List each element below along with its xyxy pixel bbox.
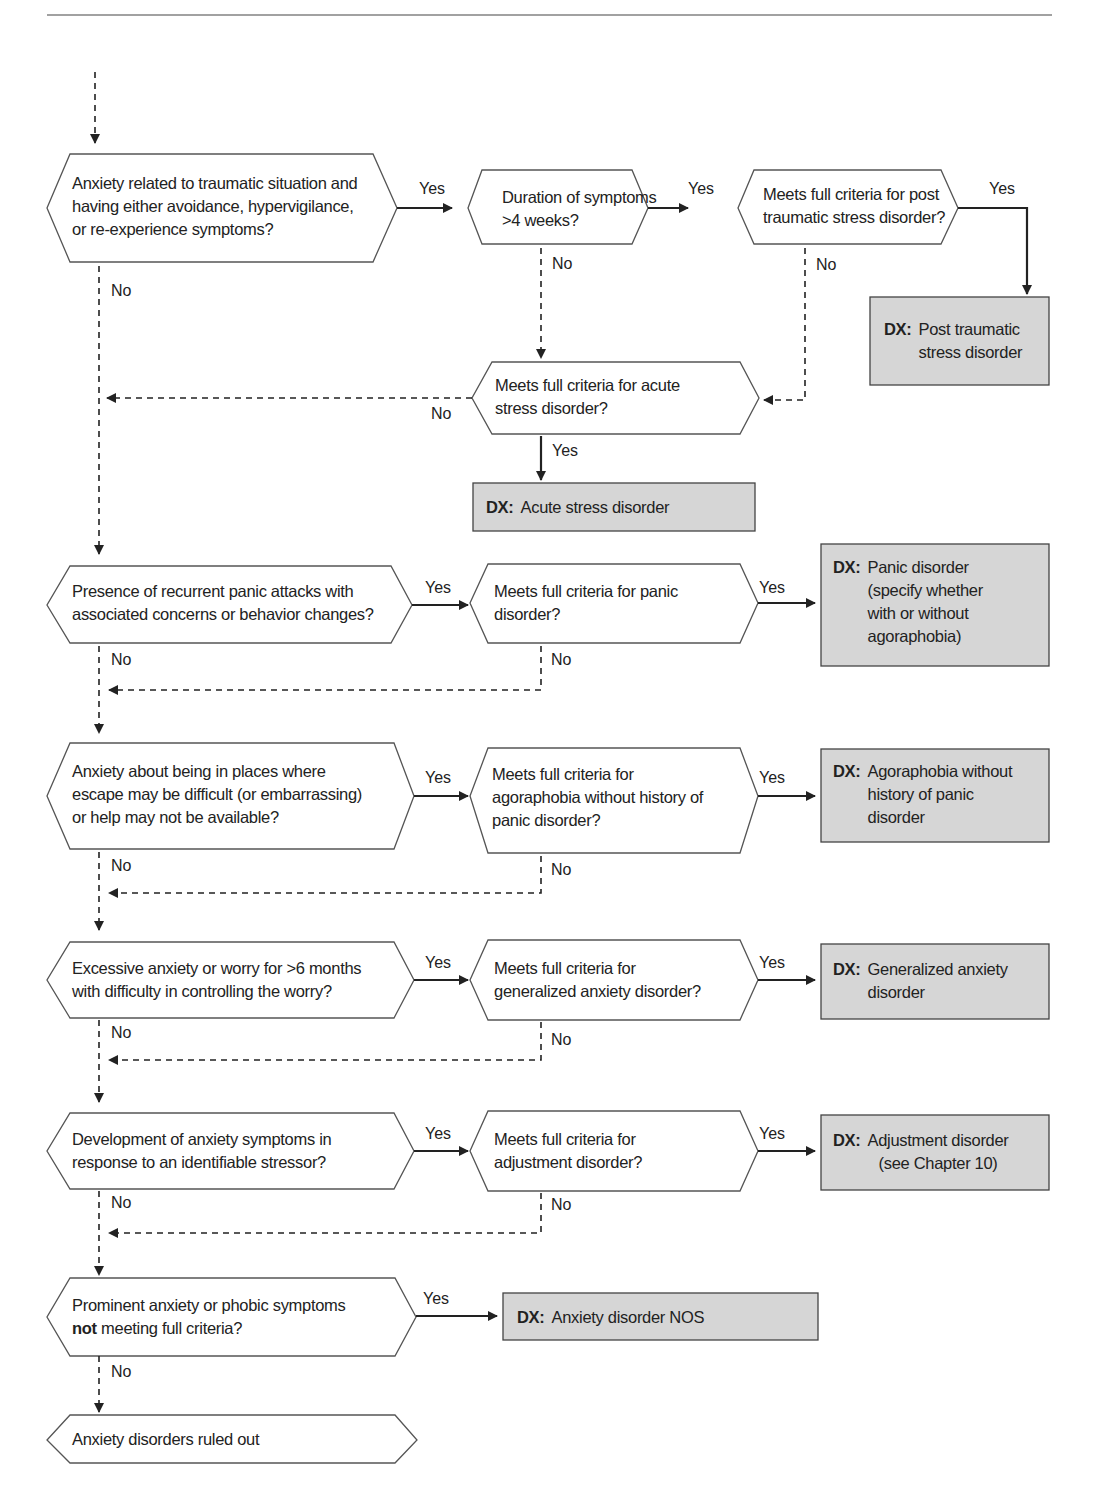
edge-no-d4: No: [431, 405, 451, 423]
edge-yes-d2: Yes: [688, 180, 714, 198]
decision-text-d8: Meets full criteria for agoraphobia with…: [492, 763, 703, 832]
decision-text-d2: Duration of symptoms >4 weeks?: [502, 186, 656, 232]
edge-yes-d12: Yes: [759, 1125, 785, 1143]
decision-text-d10: Meets full criteria for generalized anxi…: [494, 957, 701, 1003]
edge-no-d10: No: [551, 1031, 571, 1049]
decision-text-d1: Anxiety related to traumatic situation a…: [72, 172, 357, 241]
edge-no-d6: No: [551, 651, 571, 669]
edge-no-d12: No: [551, 1196, 571, 1214]
dx-text-x4: DX: Agoraphobia withouthistory of panicd…: [833, 760, 1012, 829]
edge-yes-d1: Yes: [419, 180, 445, 198]
decision-text-d5: Presence of recurrent panic attacks with…: [72, 580, 374, 626]
edge-no-d8: No: [551, 861, 571, 879]
dx-text-x1: DX: Post traumaticstress disorder: [884, 318, 1022, 364]
decision-text-d11: Development of anxiety symptoms in respo…: [72, 1128, 331, 1174]
decision-text-d13: Prominent anxiety or phobic symptoms not…: [72, 1294, 346, 1340]
edge-no-d5: No: [111, 651, 131, 669]
edge-yes-d8: Yes: [759, 769, 785, 787]
edge-no-d7: No: [111, 857, 131, 875]
dx-text-x5: DX: Generalized anxietydisorder: [833, 958, 1008, 1004]
decision-text-d3: Meets full criteria for post traumatic s…: [763, 183, 945, 229]
decision-text-d7: Anxiety about being in places where esca…: [72, 760, 362, 829]
edge-yes-d6: Yes: [759, 579, 785, 597]
edge-yes-d5: Yes: [425, 579, 451, 597]
edge-yes-d13: Yes: [423, 1290, 449, 1308]
decision-text-d12: Meets full criteria for adjustment disor…: [494, 1128, 642, 1174]
edge-no-d9: No: [111, 1024, 131, 1042]
edge-yes-d11: Yes: [425, 1125, 451, 1143]
edge-no-d11: No: [111, 1194, 131, 1212]
decision-text-d9: Excessive anxiety or worry for >6 months…: [72, 957, 361, 1003]
dx-text-x3: DX: Panic disorder(specify whetherwith o…: [833, 556, 983, 648]
edge-no-d2: No: [552, 255, 572, 273]
dx-text-x2: DX: Acute stress disorder: [486, 496, 669, 519]
decision-text-d4: Meets full criteria for acute stress dis…: [495, 374, 680, 420]
terminal-text: Anxiety disorders ruled out: [72, 1428, 259, 1451]
emphasis-not: not: [72, 1319, 97, 1337]
edge-yes-d9: Yes: [425, 954, 451, 972]
edge-yes-d10: Yes: [759, 954, 785, 972]
edge-yes-d4: Yes: [552, 442, 578, 460]
edge-no-d3: No: [816, 256, 836, 274]
edge-yes-d3: Yes: [989, 180, 1015, 198]
decision-text-d6: Meets full criteria for panic disorder?: [494, 580, 678, 626]
dx-text-x7: DX: Anxiety disorder NOS: [517, 1306, 704, 1329]
dx-text-x6: DX: Adjustment disorder(see Chapter 10): [833, 1129, 1009, 1175]
edge-no-d1: No: [111, 282, 131, 300]
edge-no-d13: No: [111, 1363, 131, 1381]
edge-yes-d7: Yes: [425, 769, 451, 787]
